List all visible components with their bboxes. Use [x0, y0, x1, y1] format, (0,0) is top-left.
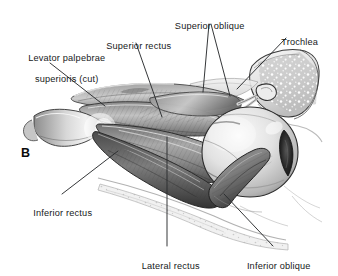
label-line-1: Inferior rectus [33, 208, 92, 218]
label-inferior-oblique: Inferior oblique [235, 250, 317, 271]
label-line-1: Inferior oblique [247, 261, 311, 271]
label-superior-rectus: Superior rectus [98, 30, 174, 51]
label-line-2: superioris (cut) [35, 74, 99, 84]
panel-letter-b: B [21, 146, 30, 160]
label-inferior-rectus: Inferior rectus [22, 197, 98, 218]
label-trochlea: Trochlea [272, 26, 322, 47]
label-line-1: Trochlea [281, 37, 318, 47]
label-line-1: Superior rectus [106, 41, 171, 51]
label-line-1: Levator palpebrae [28, 53, 105, 63]
label-line-1: Lateral rectus [142, 261, 200, 271]
label-line-1: Superior oblique [175, 21, 245, 31]
label-superior-oblique: Superior oblique [164, 10, 250, 31]
label-lateral-rectus: Lateral rectus [131, 250, 205, 271]
